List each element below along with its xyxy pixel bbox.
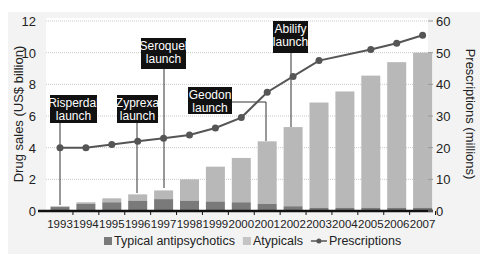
x-tick-label: 1997 [151, 218, 177, 230]
prescriptions-marker [57, 144, 64, 151]
legend-label: Typical antipsychotics [114, 234, 235, 248]
x-tick-label: 1998 [177, 218, 203, 230]
bar-atypicals [128, 194, 147, 200]
annotation-text: Abilify [274, 22, 306, 36]
y2-tick-label: 0 [436, 204, 443, 219]
x-tick-label: 2004 [332, 218, 358, 230]
y2-tick-label: 50 [436, 46, 450, 61]
bar-atypicals [102, 198, 121, 202]
legend-item: Atypicals [243, 234, 303, 248]
bar-typical [102, 202, 121, 211]
x-tick-label: 1996 [125, 218, 151, 230]
y2-tick-label: 60 [436, 14, 450, 29]
bar-atypicals [206, 167, 225, 202]
bar-atypicals [413, 53, 432, 208]
x-tick-label: 1999 [203, 218, 229, 230]
bar-atypicals [310, 103, 329, 208]
y-tick-label: 8 [29, 77, 36, 92]
x-tick-label: 2002 [280, 218, 306, 230]
y2-tick-label: 40 [436, 77, 450, 92]
prescriptions-marker [316, 57, 323, 64]
legend-item: Prescriptions [311, 234, 401, 248]
bar-atypicals [335, 91, 354, 207]
legend-label: Prescriptions [329, 234, 401, 248]
annotation-text: Seroquel [139, 39, 187, 53]
annotation-text: launch [273, 35, 308, 49]
x-axis-ticks: 1993199419951996199719981999200020012002… [47, 211, 435, 230]
y2-tick-label: 10 [436, 172, 450, 187]
bar-typical [232, 202, 251, 211]
y2-axis-label: Prescriptions (millions) [463, 49, 478, 180]
x-tick-label: 2005 [358, 218, 384, 230]
x-tick-label: 1994 [73, 218, 99, 230]
bar-atypicals [76, 202, 95, 204]
prescriptions-marker [134, 138, 141, 145]
annotation-text: Risperdal [48, 96, 99, 110]
y-tick-label: 2 [29, 172, 36, 187]
legend: Typical antipsychoticsAtypicalsPrescript… [104, 234, 401, 248]
legend-dot [316, 239, 321, 244]
legend-swatch [104, 237, 112, 245]
bar-atypicals [284, 127, 303, 206]
prescriptions-marker [238, 114, 245, 121]
prescriptions-marker [393, 40, 400, 47]
prescriptions-marker [212, 125, 219, 132]
annotation-text: launch [192, 101, 227, 115]
annotation-text: Zyprexa [116, 96, 160, 110]
chart: RisperdallaunchZyprexalaunchSeroquellaun… [0, 0, 487, 261]
annotation-text: launch [56, 109, 91, 123]
bar-atypicals [361, 76, 380, 208]
annotation-text: launch [120, 109, 155, 123]
prescriptions-marker [108, 141, 115, 148]
y-tick-label: 12 [22, 14, 36, 29]
x-tick-label: 2003 [306, 218, 332, 230]
legend-label: Atypicals [253, 234, 303, 248]
x-tick-label: 1993 [47, 218, 73, 230]
bar-typical [128, 201, 147, 211]
x-tick-label: 2000 [229, 218, 255, 230]
annotation-text: launch [146, 52, 181, 66]
y2-tick-label: 20 [436, 141, 450, 156]
y-axis-label: Drug sales (US$ billion) [11, 46, 26, 183]
legend-item: Typical antipsychotics [104, 234, 235, 248]
bar-atypicals [154, 190, 173, 199]
y-tick-label: 0 [29, 204, 36, 219]
x-tick-label: 1995 [99, 218, 125, 230]
prescriptions-marker [419, 32, 426, 39]
y2-tick-label: 30 [436, 109, 450, 124]
y-tick-label: 6 [29, 109, 36, 124]
bar-atypicals [232, 158, 251, 202]
prescriptions-marker [186, 132, 193, 139]
prescriptions-marker [264, 89, 271, 96]
prescriptions-marker [160, 135, 167, 142]
x-tick-label: 2001 [254, 218, 280, 230]
bar-atypicals [180, 179, 199, 200]
prescriptions-marker [82, 144, 89, 151]
bar-atypicals [387, 62, 406, 208]
annotation-text: Geodon [189, 88, 232, 102]
bar-atypicals [258, 141, 277, 204]
legend-swatch [243, 237, 251, 245]
bar-typical [206, 202, 225, 212]
bar-typical [180, 201, 199, 211]
prescriptions-marker [290, 73, 297, 80]
bar-typical [154, 199, 173, 211]
x-tick-label: 2007 [410, 218, 436, 230]
prescriptions-marker [367, 46, 374, 53]
y-tick-label: 4 [29, 141, 36, 156]
x-tick-label: 2006 [384, 218, 410, 230]
bar-atypicals [51, 206, 70, 207]
